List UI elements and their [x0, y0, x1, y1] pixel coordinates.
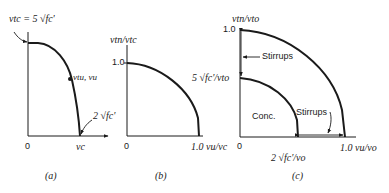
- panel-c-y-axis-label: vtn/vto: [232, 14, 259, 24]
- panel-b-axes: [127, 45, 203, 136]
- panel-b-caption: (b): [155, 171, 167, 181]
- panel-b-x-label: 1.0 vu/vc: [191, 142, 227, 152]
- panel-c-origin: 0: [237, 142, 242, 151]
- panel-c-conc-label: Conc.: [252, 112, 276, 121]
- panel-c-x-label: 1.0 vu/vo: [340, 143, 377, 153]
- panel-c-inner-curve: [240, 78, 298, 137]
- panel-a-corner-arrow: [81, 120, 92, 134]
- panel-b-curve: [127, 63, 199, 136]
- panel-c-y-tick: 1.0: [223, 25, 236, 34]
- panel-a-x-label: vc: [76, 142, 85, 152]
- panel-c-inner-y-label: 5 √fc'/vto: [192, 73, 229, 83]
- panel-a-origin: 0: [25, 142, 30, 151]
- panel-a-curve: [28, 43, 80, 136]
- panel-b-y-tick: 1.0: [112, 58, 125, 67]
- panel-a-top-label: vtc = 5 √fc': [9, 14, 55, 24]
- panel-b-origin: 0: [124, 142, 129, 151]
- interaction-diagrams: [0, 0, 389, 193]
- panel-b-y-axis-label: vtn/vtc: [110, 35, 137, 45]
- panel-a-point-label: vtu, vu: [73, 73, 97, 82]
- panel-c-inner-x-label: 2 √fc'/vo: [271, 153, 306, 163]
- panel-c-stirrups-bottom-label: Stirrups: [296, 108, 327, 117]
- panel-a-point: [68, 77, 72, 81]
- panel-c-caption: (c): [292, 171, 303, 181]
- panel-a-caption: (a): [45, 171, 57, 181]
- panel-c-stirrups-top-label: Stirrups: [262, 52, 293, 61]
- panel-a-top-arrow: [14, 32, 27, 42]
- panel-a-corner-label: 2 √fc': [93, 111, 115, 121]
